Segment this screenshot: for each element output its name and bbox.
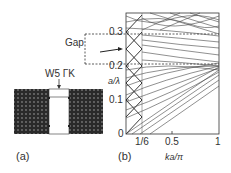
- x-tick-1-6: 1/6: [135, 137, 149, 147]
- y-ticks: [126, 32, 129, 100]
- x-tick-1: 1: [215, 137, 221, 147]
- mode-curves: [126, 13, 219, 134]
- waveguide-arrow: [57, 79, 61, 89]
- panel-a-label: (a): [16, 151, 29, 161]
- panel-b-label: (b): [118, 151, 131, 161]
- y-tick-0-3: 0.3: [109, 27, 123, 37]
- y-tick-0: 0: [118, 129, 124, 139]
- y-tick-0-1: 0.1: [109, 95, 123, 105]
- y-axis-label: a/λ: [108, 76, 120, 86]
- photonic-crystal-slab: [14, 89, 103, 134]
- y-tick-0-2: 0.2: [109, 61, 123, 71]
- gap-label: Gap: [65, 38, 84, 48]
- gap-arrow: [100, 47, 123, 52]
- x-tick-0-5: 0.5: [165, 137, 179, 147]
- waveguide-label: W5 ΓK: [45, 69, 75, 79]
- x-axis-label: ka/π: [165, 152, 183, 162]
